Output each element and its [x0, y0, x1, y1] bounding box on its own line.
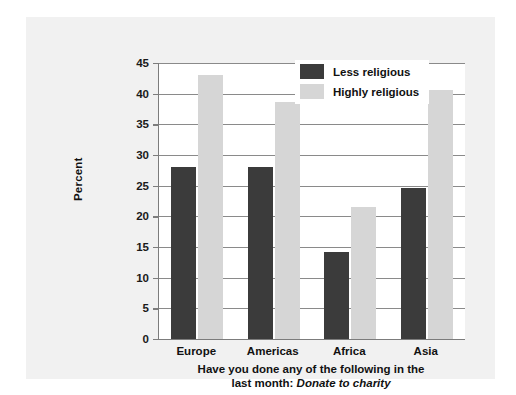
- caption-line-2-prefix: last month:: [231, 377, 296, 389]
- y-axis-tick: [153, 155, 158, 156]
- chart-caption: Have you done any of the following in th…: [158, 362, 464, 390]
- y-axis-tick-label: 45: [136, 57, 149, 69]
- x-axis-label-africa: Africa: [333, 345, 366, 357]
- y-axis-tick-label: 40: [136, 88, 149, 100]
- y-axis-tick-label: 0: [143, 333, 149, 345]
- legend-swatch-less-religious: [300, 64, 324, 79]
- figure-panel: Percent 051015202530354045 EuropeAmerica…: [26, 17, 495, 379]
- y-axis-tick-label: 15: [136, 241, 149, 253]
- y-axis-tick-label: 30: [136, 149, 149, 161]
- bar-americas-less-religious: [248, 167, 273, 339]
- y-axis-tick: [153, 63, 158, 64]
- bar-africa-highly-religious: [351, 207, 376, 339]
- y-axis-tick-label: 25: [136, 180, 149, 192]
- y-axis-tick: [153, 278, 158, 279]
- y-axis-tick-label: 5: [143, 302, 149, 314]
- chart-figure: Percent 051015202530354045 EuropeAmerica…: [0, 0, 516, 395]
- plot-area: 051015202530354045: [158, 63, 465, 340]
- legend-label-highly-religious: Highly religious: [333, 86, 419, 98]
- legend-item-less-religious: Less religious: [300, 64, 419, 79]
- y-axis-tick-label: 35: [136, 118, 149, 130]
- y-axis-tick: [153, 247, 158, 248]
- chart-legend: Less religious Highly religious: [295, 60, 429, 104]
- y-axis-tick-label: 10: [136, 272, 149, 284]
- x-axis-label-europe: Europe: [176, 345, 216, 357]
- bar-americas-highly-religious: [275, 102, 300, 339]
- bar-europe-highly-religious: [198, 75, 223, 339]
- bar-europe-less-religious: [171, 167, 196, 339]
- x-axis-label-americas: Americas: [247, 345, 299, 357]
- bar-africa-less-religious: [324, 252, 349, 339]
- caption-line-1: Have you done any of the following in th…: [198, 363, 425, 375]
- caption-line-2-emphasis: Donate to charity: [297, 377, 391, 389]
- y-axis-tick: [153, 216, 158, 217]
- y-axis-tick: [153, 186, 158, 187]
- y-axis-tick: [153, 94, 158, 95]
- y-axis-tick: [153, 339, 158, 340]
- y-axis-tick-label: 20: [136, 210, 149, 222]
- y-axis-tick: [153, 124, 158, 125]
- legend-swatch-highly-religious: [300, 84, 324, 99]
- x-axis-label-asia: Asia: [414, 345, 438, 357]
- y-axis-title: Percent: [72, 157, 84, 201]
- legend-label-less-religious: Less religious: [333, 66, 410, 78]
- bar-asia-highly-religious: [428, 90, 453, 339]
- bar-asia-less-religious: [401, 188, 426, 339]
- y-axis-tick: [153, 308, 158, 309]
- legend-item-highly-religious: Highly religious: [300, 84, 419, 99]
